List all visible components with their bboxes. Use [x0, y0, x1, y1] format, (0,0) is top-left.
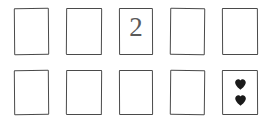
- card-r1c1[interactable]: [14, 8, 49, 55]
- card-r2c5[interactable]: [222, 70, 258, 115]
- card-rank-label: 2: [120, 12, 152, 42]
- heart-icon: [234, 94, 247, 107]
- card-r1c5[interactable]: [222, 8, 258, 55]
- heart-icon: [233, 78, 246, 91]
- card-r1c4[interactable]: [170, 8, 205, 55]
- card-r1c3[interactable]: 2: [119, 8, 153, 55]
- card-r2c4[interactable]: [170, 70, 205, 115]
- card-r1c2[interactable]: [66, 8, 102, 55]
- card-r2c1[interactable]: [14, 70, 49, 115]
- card-r2c3[interactable]: [119, 70, 153, 115]
- card-pip-group: [223, 75, 257, 110]
- card-r2c2[interactable]: [66, 70, 102, 115]
- card-grid-canvas: 2: [0, 0, 273, 124]
